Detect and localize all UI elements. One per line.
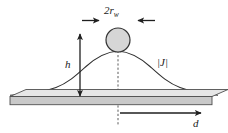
physics-diagram: 2rw h |J| d	[0, 0, 228, 133]
wire-diameter-label: 2rw	[104, 4, 119, 19]
height-label: h	[65, 58, 71, 70]
wire-radius-subscript: w	[114, 10, 119, 19]
distance-label: d	[193, 117, 199, 129]
figure-canvas: 2rw h |J| d	[0, 0, 228, 133]
wire-cross-section-circle	[106, 28, 130, 52]
current-density-label: |J|	[157, 56, 168, 68]
field-magnitude-curve	[10, 51, 218, 95]
conducting-slab	[10, 90, 228, 105]
